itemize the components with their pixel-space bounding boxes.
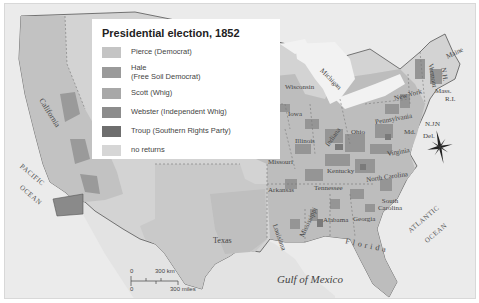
map-legend: Presidential election, 1852 Pierce (Demo… — [92, 19, 280, 159]
label-ohio: Ohio — [351, 129, 365, 136]
legend-item-troup: Troup (Southern Rights Party) — [100, 124, 272, 138]
label-missouri: Missouri — [268, 159, 293, 166]
label-wisconsin: Wisconsin — [285, 84, 314, 91]
legend-swatch-no-returns — [102, 145, 121, 156]
legend-label-webster: Webster (Independent Whig) — [131, 108, 227, 117]
label-nh: N.H. — [439, 67, 448, 82]
legend-item-no-returns: no returns — [100, 143, 272, 157]
label-kentucky: Kentucky — [327, 168, 354, 175]
legend-swatch-pierce — [102, 47, 121, 58]
legend-swatch-troup — [102, 126, 121, 137]
legend-label-hale-line2: (Free Soil Democrat) — [131, 73, 201, 82]
scale-bar: 0 300 km 0 300 miles — [130, 268, 200, 298]
scale-km-zero: 0 — [130, 268, 133, 274]
label-mass: Mass. — [435, 88, 452, 95]
legend-label-hale: Hale (Free Soil Democrat) — [131, 64, 201, 81]
label-tennessee: Tennessee — [314, 185, 343, 192]
scale-km-label: 300 km — [155, 268, 175, 274]
legend-item-scott: Scott (Whig) — [100, 86, 272, 100]
label-iowa: Iowa — [288, 111, 302, 118]
label-illinois: Illinois — [295, 138, 315, 145]
legend-swatch-webster — [102, 107, 121, 118]
legend-swatch-hale — [102, 67, 121, 78]
compass-star-icon — [425, 129, 455, 165]
legend-item-webster: Webster (Independent Whig) — [100, 105, 272, 119]
map-frame: Presidential election, 1852 Pierce (Demo… — [4, 3, 476, 299]
compass-north-label: N — [435, 121, 440, 128]
label-south-carolina: South Carolina — [372, 198, 408, 212]
label-ri: R.I. — [445, 96, 456, 103]
label-alabama: Alabama — [323, 217, 348, 224]
legend-item-pierce: Pierce (Democrat) — [100, 45, 272, 59]
label-md: Md. — [404, 129, 415, 136]
legend-title: Presidential election, 1852 — [102, 27, 272, 39]
label-georgia: Georgia — [353, 216, 375, 223]
scale-mi-label: 300 miles — [170, 286, 196, 292]
legend-swatch-scott — [102, 88, 121, 99]
scale-mi-zero: 0 — [130, 286, 133, 292]
label-arkansas: Arkansas — [268, 187, 294, 194]
legend-label-scott: Scott (Whig) — [131, 89, 172, 98]
legend-label-troup: Troup (Southern Rights Party) — [131, 127, 231, 136]
legend-label-no-returns: no returns — [131, 146, 165, 155]
label-texas: Texas — [213, 237, 232, 245]
legend-label-pierce: Pierce (Democrat) — [131, 48, 192, 57]
scale-ruler — [130, 276, 190, 286]
label-gulf-of-mexico: Gulf of Mexico — [277, 274, 343, 285]
legend-item-hale: Hale (Free Soil Democrat) — [100, 64, 272, 81]
